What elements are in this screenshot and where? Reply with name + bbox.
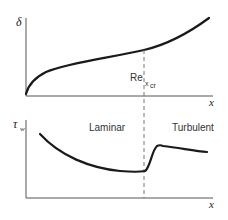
- critical-reynolds-subsubscript: cr: [150, 82, 157, 89]
- bottom-y-axis-label: τ: [13, 117, 18, 131]
- wall-shear-stress-curve: [40, 134, 207, 172]
- laminar-region-label: Laminar: [89, 122, 126, 133]
- turbulent-region-label: Turbulent: [172, 122, 214, 133]
- critical-reynolds-subscript: x: [145, 80, 149, 87]
- boundary-layer-thickness-curve: [26, 18, 209, 94]
- top-x-axis-label: x: [208, 96, 214, 108]
- top-y-axis-label: δ: [16, 15, 22, 29]
- critical-reynolds-label: Re: [130, 72, 143, 83]
- bottom-plot: τ w x Laminar Turbulent: [13, 117, 214, 210]
- boundary-layer-diagram: δ x Re x cr τ w x Lamina: [0, 0, 228, 220]
- bottom-x-axis-label: x: [208, 198, 214, 210]
- bottom-y-axis-label-subscript: w: [20, 125, 25, 133]
- diagram-canvas: δ x Re x cr τ w x Lamina: [0, 0, 228, 220]
- top-plot: δ x Re x cr: [16, 15, 214, 108]
